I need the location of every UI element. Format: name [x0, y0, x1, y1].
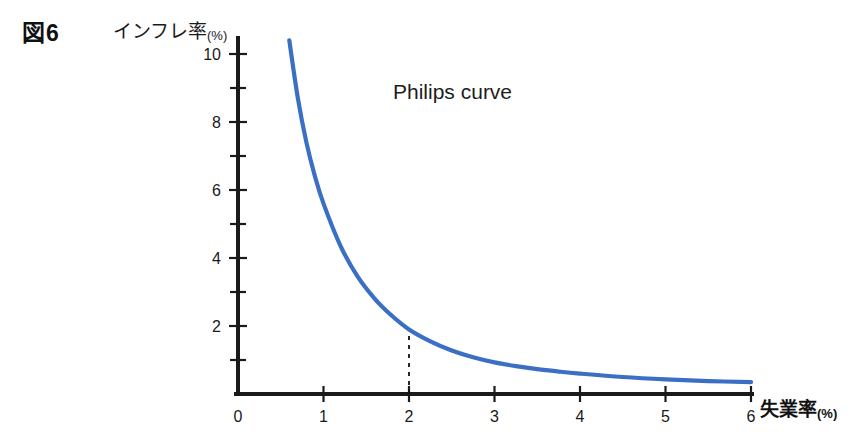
y-tick-label: 8 [212, 114, 221, 131]
x-tick-label: 5 [661, 408, 670, 425]
x-tick-label: 0 [234, 408, 243, 425]
axis-group [236, 38, 752, 394]
x-tick-label: 2 [405, 408, 414, 425]
x-tick-label: 1 [319, 408, 328, 425]
figure-container: 図6 インフレ率(%) 失業率(%) Philips curve 246810 … [0, 0, 858, 436]
x-tick-label: 6 [747, 408, 756, 425]
philips-curve-line [289, 40, 751, 382]
x-tick-label: 3 [490, 408, 499, 425]
y-tick-label: 10 [203, 46, 221, 63]
plot-canvas: 246810 0123456 [0, 0, 858, 436]
y-tick-label: 6 [212, 182, 221, 199]
y-tick-label: 2 [212, 318, 221, 335]
x-tick-label: 4 [576, 408, 585, 425]
x-tick-group: 0123456 [234, 386, 756, 425]
y-tick-group: 246810 [203, 46, 247, 361]
y-tick-label: 4 [212, 250, 221, 267]
data-series-group [289, 40, 751, 382]
